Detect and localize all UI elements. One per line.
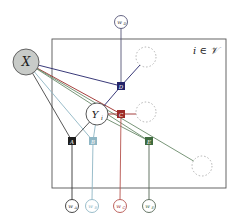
dashed-node-1 [136, 47, 156, 67]
weight-c-label: w [116, 203, 121, 209]
weight-a-label: w [68, 203, 73, 209]
node-y: Y i [86, 103, 108, 125]
edge-fc-wc [120, 114, 121, 200]
edge-x-fd [26, 62, 121, 86]
weight-d-label: w [117, 19, 122, 25]
weight-e-sub: E [151, 206, 155, 210]
weight-node-a: w A [66, 200, 79, 213]
node-x: X [13, 49, 39, 75]
factor-e: E [145, 137, 153, 145]
node-x-label: X [21, 55, 31, 69]
factor-graph-diagram: i ∈ 𝒱 X Y i [0, 0, 237, 222]
weight-a-sub: A [74, 206, 78, 210]
plate-label: i ∈ 𝒱 [193, 45, 222, 56]
weight-d-sub: D [123, 22, 127, 26]
edge-x-fa [26, 62, 72, 141]
weight-b-sub: B [94, 206, 98, 210]
factor-d-label: D [118, 84, 124, 90]
dashed-node-3 [192, 156, 212, 176]
edge-fb-wb [92, 141, 93, 200]
dashed-node-2 [136, 102, 156, 122]
factor-a: A [68, 137, 76, 145]
edge-x-fe [26, 62, 149, 141]
weight-node-b: w B [86, 200, 99, 213]
weight-node-c: w C [114, 200, 127, 213]
factor-b: B [89, 137, 97, 145]
weight-e-label: w [145, 203, 150, 209]
weight-node-e: w E [143, 200, 156, 213]
factor-d: D [117, 82, 125, 90]
node-y-sub: i [101, 114, 103, 121]
dashed-nodes [136, 47, 212, 176]
weight-c-sub: C [123, 206, 126, 210]
factor-c: C [117, 110, 125, 118]
factor-a-label: A [69, 139, 74, 145]
factor-b-label: B [90, 139, 95, 145]
factor-e-label: E [146, 139, 151, 145]
edge-x-fc [26, 62, 121, 114]
weight-b-label: w [88, 203, 93, 209]
weight-node-d: w D [115, 16, 128, 29]
